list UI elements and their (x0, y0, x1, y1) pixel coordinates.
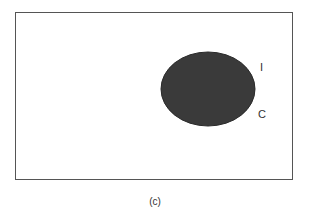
figure-caption: (c) (0, 196, 310, 207)
set-ellipse (161, 52, 255, 126)
set-label-i: I (260, 61, 263, 73)
set-label-c: C (258, 108, 266, 120)
diagram-canvas (0, 0, 310, 208)
